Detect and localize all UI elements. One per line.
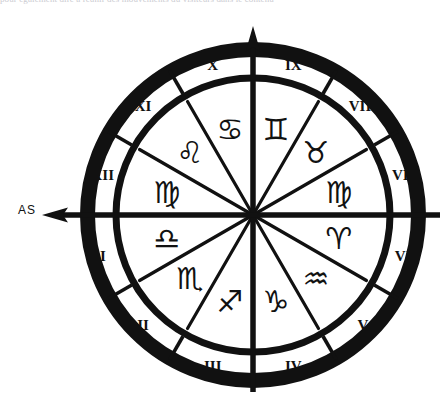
- house-numeral-XI: XI: [135, 98, 152, 114]
- house-numeral-VII: VII: [392, 167, 415, 183]
- zodiac-glyph-sagittarius: ♐: [217, 284, 244, 319]
- zodiac-glyph-gemini: ♊: [263, 112, 290, 147]
- wheel-svg: IIIIIIIVVVIVIIVIIIIXXXIXII ♍♌♋♊♉♍♈♒♑♐♏♎: [0, 0, 447, 404]
- house-numeral-X: X: [207, 57, 218, 73]
- zodiac-glyph-aries: ♈: [326, 221, 353, 256]
- zodiac-glyph-scorpio: ♏: [177, 261, 204, 296]
- zodiac-glyph-taurus: ♉: [302, 135, 329, 170]
- zodiac-glyph-virgo: ♍: [154, 175, 181, 210]
- zodiac-glyph-virgo-lower: ♍: [326, 175, 353, 210]
- house-numeral-IV: IV: [285, 358, 302, 374]
- zodiac-glyph-cancer: ♋: [217, 112, 244, 147]
- zodiac-glyph-leo: ♌: [177, 135, 204, 170]
- zodiac-glyph-aquarius: ♒: [302, 261, 329, 296]
- house-numeral-VI: VI: [395, 248, 412, 264]
- ascendant-label: AS: [18, 203, 36, 217]
- house-numeral-IX: IX: [285, 57, 302, 73]
- house-numeral-I: I: [100, 248, 106, 264]
- zodiac-glyph-libra: ♎: [154, 221, 181, 256]
- house-numeral-II: II: [137, 317, 149, 333]
- house-numeral-VIII: VIII: [349, 98, 378, 114]
- house-numeral-V: V: [358, 317, 369, 333]
- zodiac-glyph-capricorn: ♑: [263, 284, 290, 319]
- house-numeral-III: III: [204, 358, 222, 374]
- astrological-wheel-figure: IIIIIIIVVVIVIIVIIIIXXXIXII ♍♌♋♊♉♍♈♒♑♐♏♎ …: [0, 0, 447, 404]
- house-numeral-XII: XII: [92, 167, 115, 183]
